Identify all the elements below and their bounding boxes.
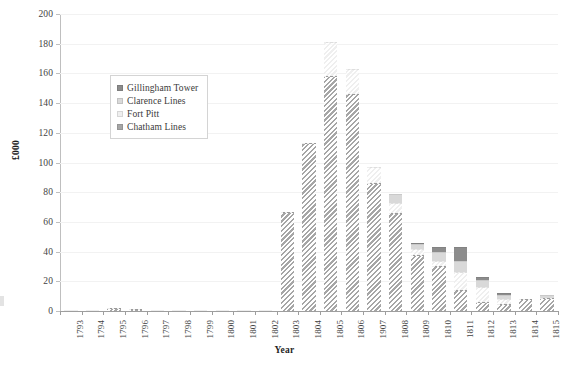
bar-segment: [476, 302, 489, 311]
bar-segment: [346, 94, 359, 311]
bar-segment: [86, 310, 99, 311]
legend-swatch-icon: [117, 98, 123, 104]
x-axis-tick-label: 1806: [356, 320, 366, 338]
bar-segment: [107, 308, 120, 311]
bar-segment: [172, 310, 185, 311]
legend-item-label: Chatham Lines: [127, 122, 186, 132]
bar-stack[interactable]: [476, 277, 489, 311]
y-axis-tick-label: 160: [38, 68, 53, 78]
y-axis-title: £000: [11, 140, 21, 160]
bar-stack[interactable]: [86, 310, 99, 311]
bar-segment: [194, 310, 207, 311]
bar-stack[interactable]: [432, 247, 445, 311]
bar-stack[interactable]: [540, 295, 553, 311]
x-axis-tick-label: 1798: [183, 320, 193, 338]
y-axis-tick: [56, 133, 60, 134]
chart-legend: Gillingham TowerClarence LinesFort PittC…: [110, 75, 208, 139]
legend-item-label: Gillingham Tower: [127, 83, 198, 93]
bar-segment: [497, 304, 510, 311]
x-axis-tick: [363, 311, 364, 315]
legend-swatch-icon: [117, 85, 123, 91]
x-axis-tick: [147, 311, 148, 315]
y-axis-tick: [56, 252, 60, 253]
bar-stack[interactable]: [151, 310, 164, 311]
x-axis-tick: [103, 311, 104, 315]
x-axis-line: [60, 311, 559, 312]
bar-stack[interactable]: [107, 308, 120, 311]
y-axis-tick-label: 180: [38, 39, 53, 49]
x-axis-tick-label: 1797: [161, 320, 171, 338]
bar-stack[interactable]: [346, 69, 359, 311]
bar-stack[interactable]: [237, 310, 250, 311]
bar-stack[interactable]: [454, 247, 467, 311]
bar-segment: [519, 299, 532, 311]
x-axis-tick-label: 1809: [421, 320, 431, 338]
x-axis-tick-label: 1812: [486, 320, 496, 338]
legend-swatch-icon: [117, 111, 123, 117]
bar-segment: [151, 310, 164, 311]
x-axis-tick: [320, 311, 321, 315]
x-axis-tick: [233, 311, 234, 315]
x-axis-tick: [298, 311, 299, 315]
bar-stack[interactable]: [64, 310, 77, 311]
bar-segment: [324, 42, 337, 76]
bar-stack[interactable]: [194, 310, 207, 311]
plot-area: 0204060801001201401601802001793179417951…: [60, 14, 558, 311]
bar-stack[interactable]: [302, 143, 315, 311]
bar-stack[interactable]: [172, 310, 185, 311]
bar-segment: [454, 247, 467, 260]
x-axis-tick: [168, 311, 169, 315]
legend-swatch-icon: [117, 124, 123, 130]
edge-artifact: [0, 296, 4, 306]
bar-segment: [64, 310, 77, 311]
bar-segment: [367, 183, 380, 311]
x-axis-tick: [406, 311, 407, 315]
bar-stack[interactable]: [519, 299, 532, 311]
legend-item[interactable]: Gillingham Tower: [117, 81, 198, 94]
legend-item[interactable]: Fort Pitt: [117, 107, 198, 120]
bar-stack[interactable]: [367, 167, 380, 311]
bar-segment: [454, 261, 467, 273]
bar-stack[interactable]: [324, 42, 337, 311]
x-axis-tick: [125, 311, 126, 315]
bar-stack[interactable]: [281, 212, 294, 311]
legend-item[interactable]: Clarence Lines: [117, 94, 198, 107]
bar-stack[interactable]: [497, 293, 510, 311]
x-axis-tick-label: 1801: [248, 320, 258, 338]
bar-segment: [476, 287, 489, 302]
bar-stack[interactable]: [411, 243, 424, 311]
legend-item[interactable]: Chatham Lines: [117, 120, 198, 133]
y-axis-tick-label: 120: [38, 128, 53, 138]
x-axis-tick-label: 1814: [530, 320, 540, 338]
y-axis-tick: [56, 281, 60, 282]
legend-item-label: Clarence Lines: [127, 96, 186, 106]
x-axis-tick: [536, 311, 537, 315]
y-axis-tick-label: 60: [43, 217, 53, 227]
bar-segment: [432, 266, 445, 311]
bar-stack[interactable]: [129, 309, 142, 311]
x-axis-tick: [450, 311, 451, 315]
bar-segment: [411, 255, 424, 311]
x-axis-tick-label: 1803: [291, 320, 301, 338]
x-axis-tick-label: 1907: [378, 320, 388, 338]
gridline: [60, 44, 558, 45]
x-axis-tick-label: 1794: [96, 320, 106, 338]
y-axis-tick-label: 140: [38, 98, 53, 108]
bar-stack[interactable]: [259, 310, 272, 311]
x-axis-tick: [190, 311, 191, 315]
x-axis-tick-label: 1793: [75, 320, 85, 338]
x-axis-tick-label: 1808: [400, 320, 410, 338]
x-axis-tick-label: 1815: [551, 320, 561, 338]
x-axis-tick-label: 1796: [140, 320, 150, 338]
x-axis-tick-label: 1799: [205, 320, 215, 338]
x-axis-tick: [82, 311, 83, 315]
bar-stack[interactable]: [389, 194, 402, 311]
x-axis-tick: [60, 311, 61, 315]
bar-segment: [389, 203, 402, 213]
x-axis-tick: [428, 311, 429, 315]
bar-stack[interactable]: [216, 310, 229, 311]
y-axis-tick: [56, 44, 60, 45]
y-axis-tick: [56, 103, 60, 104]
bar-segment: [216, 310, 229, 311]
bar-segment: [389, 213, 402, 311]
